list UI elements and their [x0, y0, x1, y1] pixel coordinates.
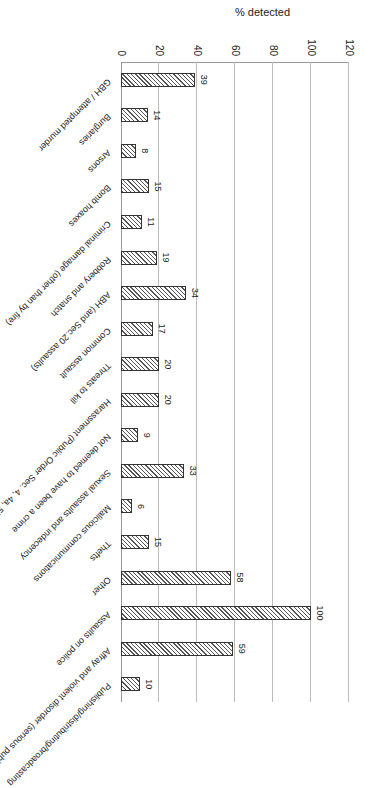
bar-value-label: 39 [199, 65, 209, 95]
bar-value-label: 17 [157, 314, 167, 344]
bar [121, 535, 150, 549]
gridline [348, 62, 349, 702]
x-category-label: Burglaries [77, 112, 113, 148]
bar [121, 464, 184, 478]
bar [121, 677, 140, 691]
x-category-label: Harassment (Public Order Sec. 4, 4a, 5) [0, 397, 113, 517]
x-category-label: Other [90, 574, 113, 597]
bar [121, 322, 153, 336]
bar-value-label: 15 [154, 527, 164, 557]
bar-value-label: 20 [163, 349, 173, 379]
x-category-label: Arsons [86, 148, 113, 175]
y-axis-line [121, 62, 349, 63]
bar [121, 642, 233, 656]
bar-value-label: 11 [146, 207, 156, 237]
bar [121, 393, 159, 407]
bar [121, 286, 186, 300]
bar-value-label: 6 [136, 491, 146, 521]
x-category-label: Affray and violent disorder (serious pub… [0, 646, 113, 788]
bar [121, 357, 159, 371]
bar [121, 144, 136, 158]
bar-value-label: 34 [190, 278, 200, 308]
bar [121, 251, 157, 265]
y-tick-label: 40 [192, 45, 203, 56]
bar [121, 179, 150, 193]
bar [121, 428, 138, 442]
bar [121, 108, 148, 122]
bar-value-label: 20 [163, 385, 173, 415]
bar-value-label: 10 [144, 669, 154, 699]
bar [121, 73, 195, 87]
bar [121, 499, 132, 513]
bar-value-label: 33 [188, 456, 198, 486]
x-category-label: Robbery and snatch [49, 254, 113, 318]
y-axis-label: % detected [235, 6, 290, 18]
bar-value-label: 8 [140, 136, 150, 166]
bar-value-label: 100 [315, 598, 325, 628]
bar-value-label: 19 [161, 243, 171, 273]
y-tick-label: 0 [116, 50, 127, 56]
x-category-label: Thefts [88, 539, 113, 564]
bar-value-label: 59 [237, 634, 247, 664]
bar-value-label: 15 [154, 171, 164, 201]
y-tick-label: 20 [154, 45, 165, 56]
bar-value-label: 14 [152, 100, 162, 130]
y-tick-label: 60 [230, 45, 241, 56]
bar [121, 571, 231, 585]
bar [121, 215, 142, 229]
y-tick-label: 80 [268, 45, 279, 56]
bar-value-label: 58 [235, 563, 245, 593]
bar-value-label: 9 [142, 420, 152, 450]
y-tick-label: 100 [306, 39, 317, 56]
plot-area: 02040608010012039GBH / attempted murder1… [121, 62, 349, 702]
bar [121, 606, 311, 620]
y-tick-label: 120 [344, 39, 355, 56]
